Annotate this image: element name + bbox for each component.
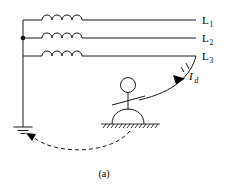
- label-l2: L 2: [202, 32, 214, 47]
- label-l1-text: L: [202, 14, 209, 26]
- dashed-return-path: [33, 131, 130, 150]
- label-l2-subscript: 2: [210, 38, 214, 47]
- fault-current-wire: [139, 56, 196, 100]
- return-path-arrowhead: [26, 133, 36, 141]
- stick-figure-person: [112, 78, 145, 125]
- phase-line-l2: [23, 33, 196, 38]
- person-head: [121, 78, 136, 93]
- current-arrowhead: [173, 75, 185, 85]
- circuit-diagram: L 1 L 2 L 3: [0, 0, 227, 185]
- current-label-id: I d: [188, 70, 199, 85]
- hatched-ground: [101, 124, 160, 128]
- label-l3-text: L: [202, 50, 209, 62]
- label-l1-subscript: 1: [210, 20, 214, 29]
- label-l2-text: L: [202, 32, 209, 44]
- current-label-symbol: I: [188, 70, 194, 82]
- label-l1: L 1: [202, 14, 214, 29]
- label-l3-subscript: 3: [210, 56, 214, 65]
- figure-container: L 1 L 2 L 3: [0, 0, 227, 185]
- person-legs: [112, 109, 144, 124]
- current-tick-marks: [181, 63, 189, 72]
- earth-ground-symbol: [14, 127, 33, 134]
- figure-caption: (a): [98, 168, 109, 180]
- current-label-subscript: d: [195, 76, 199, 85]
- phase-line-l3: [23, 51, 196, 56]
- phase-line-l1: [23, 15, 196, 20]
- label-l3: L 3: [202, 50, 214, 65]
